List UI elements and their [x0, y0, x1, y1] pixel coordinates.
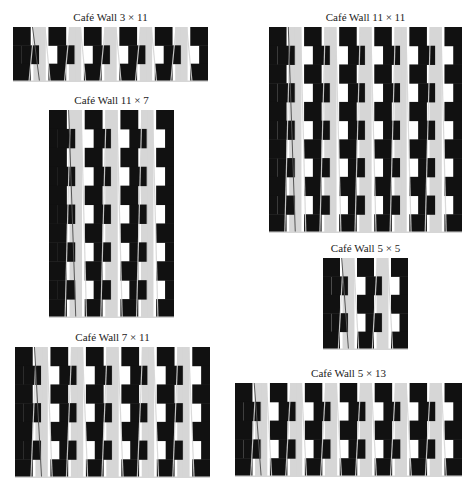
cafe-wall-pattern	[15, 347, 210, 478]
cafe-wall-pattern	[323, 258, 408, 350]
panel-title: Café Wall 11 × 7	[49, 94, 174, 106]
panel-11x11: Café Wall 11 × 11	[269, 11, 462, 233]
panel-title: Café Wall 7 × 11	[15, 331, 210, 343]
cafe-wall-pattern	[49, 110, 174, 318]
panel-5x5: Café Wall 5 × 5	[323, 242, 408, 350]
cafe-wall-pattern	[269, 27, 462, 233]
panel-5x13: Café Wall 5 × 13	[235, 367, 462, 477]
panel-title: Café Wall 11 × 11	[269, 11, 462, 23]
cafe-wall-pattern	[13, 27, 208, 82]
panel-7x11: Café Wall 7 × 11	[15, 331, 210, 478]
panel-11x7: Café Wall 11 × 7	[49, 94, 174, 318]
panel-title: Café Wall 5 × 5	[323, 242, 408, 254]
panel-title: Café Wall 5 × 13	[235, 367, 462, 379]
cafe-wall-pattern	[235, 383, 462, 477]
panel-3x11: Café Wall 3 × 11	[13, 11, 208, 82]
panel-title: Café Wall 3 × 11	[13, 11, 208, 23]
